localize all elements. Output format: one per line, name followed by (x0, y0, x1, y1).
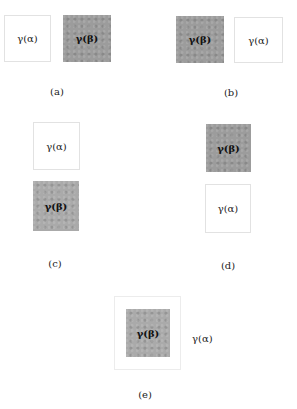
beta-region: γ(β) (33, 181, 79, 231)
alpha-region: γ(α) (205, 184, 251, 233)
beta-region: γ(β) (176, 16, 224, 63)
beta-region: γ(β) (206, 124, 251, 172)
caption-b: (b) (224, 87, 238, 98)
beta-region: γ(β) (63, 15, 111, 62)
beta-label: γ(β) (137, 328, 160, 339)
alpha-region: γ(α) (33, 122, 80, 170)
beta-label: γ(β) (217, 143, 240, 154)
alpha-label: γ(α) (192, 333, 213, 344)
caption-a: (a) (50, 86, 64, 97)
alpha-region: γ(α) (234, 17, 283, 63)
beta-label: γ(β) (45, 201, 68, 212)
beta-label: γ(β) (189, 34, 212, 45)
caption-e: (e) (138, 389, 152, 400)
beta-label: γ(β) (76, 33, 99, 44)
caption-c: (c) (48, 258, 61, 269)
alpha-label: γ(α) (248, 35, 269, 46)
alpha-region: γ(α) (4, 15, 51, 62)
beta-inner-region: γ(β) (126, 309, 170, 357)
caption-d: (d) (221, 260, 235, 271)
alpha-label: γ(α) (218, 203, 239, 214)
alpha-label: γ(α) (46, 141, 67, 152)
alpha-label: γ(α) (17, 33, 38, 44)
